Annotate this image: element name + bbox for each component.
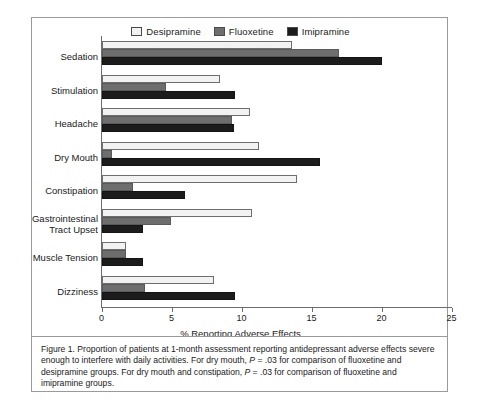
bar-imipramine <box>102 191 185 199</box>
bar-group-stimulation: Stimulation <box>32 73 449 107</box>
x-tick-5 <box>172 308 173 312</box>
bar-desipramine <box>102 75 220 83</box>
bar-group-gastrointestinal-tract-upset: Gastrointestinal Tract Upset <box>32 207 449 241</box>
category-label: Constipation <box>0 185 98 196</box>
bar-group-constipation: Constipation <box>32 173 449 207</box>
bar-fluoxetine <box>102 284 145 292</box>
bar-desipramine <box>102 242 126 250</box>
bar-desipramine <box>102 209 252 217</box>
x-tick-label-15: 15 <box>306 313 316 323</box>
bar-group-headache: Headache <box>32 106 449 140</box>
x-tick-0 <box>102 308 103 312</box>
bar-group-muscle-tension: Muscle Tension <box>32 240 449 274</box>
category-label: Headache <box>0 118 98 129</box>
bar-desipramine <box>102 41 292 49</box>
x-tick-10 <box>242 308 243 312</box>
category-label: Stimulation <box>0 84 98 95</box>
bar-fluoxetine <box>102 150 112 158</box>
bar-group-dry-mouth: Dry Mouth <box>32 140 449 174</box>
bar-fluoxetine <box>102 183 133 191</box>
bar-imipramine <box>102 91 235 99</box>
x-tick-25 <box>452 308 453 312</box>
bar-desipramine <box>102 142 259 150</box>
x-tick-label-20: 20 <box>376 313 386 323</box>
bar-imipramine <box>102 57 382 65</box>
category-label: Dizziness <box>0 285 98 296</box>
bar-fluoxetine <box>102 116 232 124</box>
figure-caption-text: Figure 1. Proportion of patients at 1-mo… <box>41 344 438 389</box>
x-tick-label-0: 0 <box>99 313 104 323</box>
bar-fluoxetine <box>102 250 126 258</box>
bar-group-dizziness: Dizziness <box>32 274 449 308</box>
x-tick-label-25: 25 <box>446 313 456 323</box>
bar-desipramine <box>102 175 297 183</box>
x-tick-label-5: 5 <box>169 313 174 323</box>
category-label: Sedation <box>0 51 98 62</box>
category-label: Gastrointestinal Tract Upset <box>0 213 98 235</box>
bar-fluoxetine <box>102 49 339 57</box>
bar-fluoxetine <box>102 83 166 91</box>
bar-imipramine <box>102 225 143 233</box>
x-tick-15 <box>312 308 313 312</box>
bar-imipramine <box>102 124 234 132</box>
bar-group-sedation: Sedation <box>32 39 449 73</box>
category-label: Muscle Tension <box>0 252 98 263</box>
x-tick-label-10: 10 <box>236 313 246 323</box>
bar-fluoxetine <box>102 217 171 225</box>
bar-desipramine <box>102 108 250 116</box>
bar-imipramine <box>102 158 320 166</box>
bar-imipramine <box>102 292 235 300</box>
category-label: Dry Mouth <box>0 151 98 162</box>
x-tick-20 <box>382 308 383 312</box>
figure-caption-box: Figure 1. Proportion of patients at 1-mo… <box>31 336 448 392</box>
bar-imipramine <box>102 258 143 266</box>
bar-desipramine <box>102 276 214 284</box>
